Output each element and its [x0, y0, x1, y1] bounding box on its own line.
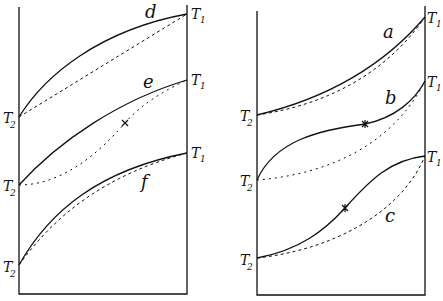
left-panel-frame — [19, 5, 187, 294]
svg-text:2: 2 — [246, 118, 253, 128]
svg-text:1: 1 — [436, 158, 442, 168]
svg-text:2: 2 — [9, 120, 16, 130]
marker-c-icon — [342, 204, 348, 212]
curve-f-dashed — [19, 153, 187, 265]
label-d: d — [145, 1, 157, 22]
svg-text:1: 1 — [436, 83, 442, 93]
t2-label-c: T 2 — [240, 252, 253, 272]
label-e: e — [143, 71, 154, 92]
label-b: b — [385, 87, 397, 108]
t2-label-a: T 2 — [240, 108, 253, 128]
t1-label-f: T 1 — [191, 145, 206, 164]
curve-a-dashed — [257, 17, 425, 115]
diagram-canvas: d e f a b c T 1 T 1 T 1 T 1 T 1 T 1 T 2 … — [0, 0, 443, 301]
svg-text:1: 1 — [436, 19, 442, 29]
curve-c-dashed — [257, 156, 425, 258]
curve-b-dashed — [257, 81, 425, 180]
t2-label-e: T 2 — [3, 178, 16, 198]
t1-label-c: T 1 — [427, 149, 442, 168]
t2-label-f: T 2 — [3, 259, 16, 279]
curve-f-solid — [19, 153, 187, 265]
t1-label-b: T 1 — [427, 74, 442, 93]
t2-label-d: T 2 — [3, 110, 16, 130]
curve-e-solid — [19, 80, 187, 185]
t2-label-b: T 2 — [240, 173, 253, 193]
curve-b-solid — [257, 81, 425, 180]
svg-text:1: 1 — [200, 15, 206, 25]
label-f: f — [139, 171, 151, 192]
curve-e-dashed — [19, 80, 187, 185]
svg-text:2: 2 — [9, 269, 16, 279]
marker-e-icon — [122, 120, 128, 126]
t1-label-e: T 1 — [191, 72, 206, 91]
t1-label-a: T 1 — [427, 10, 442, 29]
svg-text:2: 2 — [246, 262, 253, 272]
svg-text:2: 2 — [9, 188, 16, 198]
svg-text:2: 2 — [246, 183, 253, 193]
label-c: c — [385, 205, 395, 226]
label-a: a — [383, 21, 394, 42]
svg-text:1: 1 — [200, 81, 206, 91]
svg-text:1: 1 — [200, 154, 206, 164]
t1-label-d: T 1 — [191, 6, 206, 25]
curve-c-solid — [257, 156, 425, 258]
curve-d-dashed — [19, 14, 187, 117]
curve-a-solid — [257, 17, 425, 115]
